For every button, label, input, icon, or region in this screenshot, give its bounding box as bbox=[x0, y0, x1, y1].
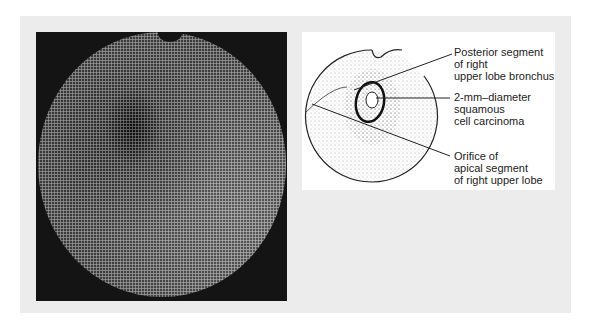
label-carcinoma: 2-mm–diameter squamous cell carcinoma bbox=[454, 91, 531, 127]
bronchoscopy-photo bbox=[36, 32, 287, 301]
endoscope-view bbox=[38, 32, 286, 297]
label-line: upper lobe bronchus bbox=[454, 70, 554, 82]
label-line: 2-mm–diameter bbox=[454, 91, 531, 103]
labeled-diagram: Posterior segment of right upper lobe br… bbox=[302, 32, 555, 190]
label-line: Posterior segment bbox=[454, 46, 554, 58]
label-line: of right bbox=[454, 58, 554, 70]
label-apical-orifice: Orifice of apical segment of right upper… bbox=[454, 150, 543, 186]
label-line: Orifice of bbox=[454, 150, 543, 162]
label-line: cell carcinoma bbox=[454, 115, 531, 127]
label-line: of right upper lobe bbox=[454, 174, 543, 186]
label-line: squamous bbox=[454, 103, 531, 115]
label-posterior-segment: Posterior segment of right upper lobe br… bbox=[454, 46, 554, 82]
label-line: apical segment bbox=[454, 162, 543, 174]
